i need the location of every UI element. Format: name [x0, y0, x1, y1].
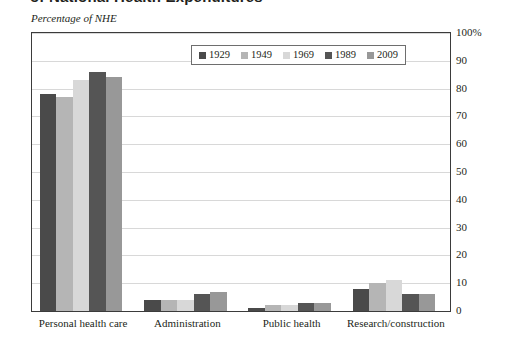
- bar-group: [144, 33, 227, 311]
- legend-item-1949[interactable]: 1949: [241, 50, 272, 61]
- x-tick-label: Research/construction: [347, 317, 445, 329]
- y-axis-labels: 0102030405060708090100%: [456, 32, 516, 312]
- legend-swatch-icon: [325, 52, 332, 59]
- y-axis-caption: Percentage of NHE: [31, 12, 117, 24]
- y-tick-label: 100%: [456, 26, 482, 38]
- legend: 19291949196919892009: [191, 45, 406, 65]
- legend-swatch-icon: [199, 52, 206, 59]
- x-tick-label: Public health: [263, 317, 321, 329]
- legend-item-1969[interactable]: 1969: [283, 50, 314, 61]
- legend-label: 1949: [251, 50, 272, 61]
- bar[interactable]: [177, 300, 194, 311]
- bar[interactable]: [314, 303, 331, 311]
- legend-item-2009[interactable]: 2009: [367, 50, 398, 61]
- bar[interactable]: [106, 77, 123, 311]
- y-tick-label: 0: [456, 304, 462, 316]
- legend-label: 2009: [377, 50, 398, 61]
- x-tick-label: Administration: [154, 317, 221, 329]
- bar[interactable]: [161, 300, 178, 311]
- bar[interactable]: [419, 294, 436, 311]
- legend-label: 1969: [293, 50, 314, 61]
- y-tick-label: 40: [456, 193, 467, 205]
- bar-group: [353, 33, 436, 311]
- legend-swatch-icon: [367, 52, 374, 59]
- bars-layer: [32, 33, 449, 311]
- legend-label: 1929: [209, 50, 230, 61]
- bar[interactable]: [353, 289, 370, 311]
- legend-swatch-icon: [283, 52, 290, 59]
- legend-label: 1989: [335, 50, 356, 61]
- y-tick-label: 10: [456, 276, 467, 288]
- bar[interactable]: [56, 97, 73, 311]
- x-tick-label: Personal health care: [39, 317, 128, 329]
- legend-item-1989[interactable]: 1989: [325, 50, 356, 61]
- legend-swatch-icon: [241, 52, 248, 59]
- bar[interactable]: [89, 72, 106, 311]
- y-tick-label: 60: [456, 137, 467, 149]
- bar[interactable]: [210, 292, 227, 311]
- legend-item-1929[interactable]: 1929: [199, 50, 230, 61]
- x-axis-labels: Personal health careAdministrationPublic…: [31, 313, 451, 337]
- bar[interactable]: [40, 94, 57, 311]
- bar[interactable]: [281, 305, 298, 311]
- bar[interactable]: [265, 305, 282, 311]
- chart-page: of National Health Expenditures Percenta…: [0, 0, 520, 343]
- bar[interactable]: [144, 300, 161, 311]
- bar-group: [40, 33, 123, 311]
- bar[interactable]: [194, 294, 211, 311]
- page-title: of National Health Expenditures: [30, 0, 263, 5]
- y-tick-label: 90: [456, 54, 467, 66]
- bar[interactable]: [73, 80, 90, 311]
- bar-group: [248, 33, 331, 311]
- y-tick-label: 50: [456, 165, 467, 177]
- y-tick-label: 80: [456, 82, 467, 94]
- y-tick-label: 30: [456, 221, 467, 233]
- y-tick-label: 70: [456, 109, 467, 121]
- bar[interactable]: [248, 308, 265, 311]
- y-tick-label: 20: [456, 248, 467, 260]
- bar[interactable]: [369, 283, 386, 311]
- bar[interactable]: [402, 294, 419, 311]
- bar[interactable]: [298, 303, 315, 311]
- bar[interactable]: [386, 280, 403, 311]
